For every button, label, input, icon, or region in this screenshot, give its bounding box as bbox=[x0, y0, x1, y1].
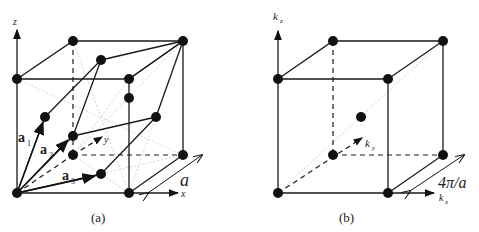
atom bbox=[178, 150, 188, 160]
dimension-label-b: 4π/a bbox=[438, 174, 466, 191]
svg-text:a: a bbox=[62, 168, 69, 183]
atoms-a bbox=[12, 36, 188, 198]
kx-label: k x bbox=[439, 192, 449, 206]
svg-text:k: k bbox=[273, 10, 279, 22]
caption-a: (a) bbox=[91, 210, 105, 225]
figure-canvas: z y x a 1 a 2 a 3 a (a) bbox=[0, 0, 479, 232]
atom bbox=[124, 74, 134, 84]
atom bbox=[328, 36, 338, 46]
svg-text:2: 2 bbox=[49, 151, 53, 160]
panel-a: z y x a 1 a 2 a 3 a (a) bbox=[12, 16, 202, 225]
svg-text:3: 3 bbox=[71, 177, 75, 186]
atom bbox=[12, 74, 22, 84]
atom bbox=[178, 36, 188, 46]
atom bbox=[273, 74, 283, 84]
atom bbox=[273, 188, 283, 198]
svg-text:x: x bbox=[444, 198, 449, 206]
dimension-label-a: a bbox=[180, 170, 189, 190]
z-axis-label: z bbox=[12, 16, 17, 27]
primitive-vectors bbox=[17, 122, 95, 193]
atom bbox=[12, 188, 22, 198]
vector-a3 bbox=[17, 176, 95, 193]
caption-b: (b) bbox=[339, 210, 354, 225]
panel-b: k z k y k x 4π/a (b) bbox=[273, 10, 466, 225]
svg-text:y: y bbox=[371, 144, 376, 152]
atom bbox=[68, 150, 78, 160]
svg-text:z: z bbox=[279, 17, 283, 25]
atom bbox=[68, 36, 78, 46]
atom bbox=[438, 150, 448, 160]
atom bbox=[124, 188, 134, 198]
atom bbox=[438, 36, 448, 46]
svg-text:1: 1 bbox=[27, 139, 31, 148]
atom bbox=[383, 188, 393, 198]
kz-label: k z bbox=[273, 10, 283, 25]
axes-b bbox=[278, 31, 434, 193]
svg-text:a: a bbox=[18, 130, 25, 145]
svg-text:k: k bbox=[365, 137, 371, 149]
atom bbox=[151, 112, 161, 122]
atom bbox=[124, 93, 134, 103]
atom bbox=[96, 169, 106, 179]
a1-label: a 1 bbox=[18, 130, 31, 148]
ky-label: k y bbox=[365, 137, 376, 152]
atom bbox=[328, 150, 338, 160]
atom bbox=[40, 112, 50, 122]
atom bbox=[96, 55, 106, 65]
atom bbox=[383, 74, 393, 84]
svg-text:k: k bbox=[439, 192, 444, 203]
ky-axis bbox=[278, 138, 362, 193]
atom bbox=[68, 131, 78, 141]
y-axis-label: y bbox=[103, 134, 109, 145]
a2-label: a 2 bbox=[40, 142, 53, 160]
body-center-atom bbox=[356, 112, 366, 122]
svg-text:a: a bbox=[40, 142, 47, 157]
